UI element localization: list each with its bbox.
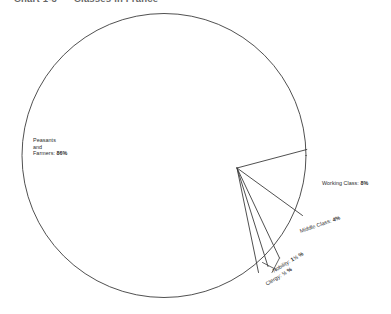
slice-label-working-class: Working Class: 8% bbox=[322, 180, 368, 187]
slice-divider-peasants-working bbox=[237, 150, 307, 169]
slice-divider-nobility-clergy bbox=[237, 168, 268, 267]
pie-chart-figure: Chart 1-3Classes in France Peasants and … bbox=[0, 0, 391, 314]
slice-label-peasants-line1: Peasants bbox=[33, 137, 56, 143]
slice-label-peasants-line3: Farmers: bbox=[33, 150, 57, 156]
slice-value-peasants: 86% bbox=[57, 150, 68, 156]
pie-chart-canvas bbox=[0, 0, 391, 314]
slice-value-working-class: 8% bbox=[360, 180, 368, 186]
slice-divider-middle-nobility bbox=[237, 168, 280, 258]
slice-label-peasants: Peasants and Farmers: 86% bbox=[33, 137, 67, 157]
slice-label-working-class-text: Working Class: bbox=[322, 180, 360, 186]
slice-divider-clergy-peasants bbox=[237, 168, 259, 273]
slice-label-peasants-line2: and bbox=[33, 144, 42, 150]
slice-divider-working-middle bbox=[237, 168, 303, 216]
